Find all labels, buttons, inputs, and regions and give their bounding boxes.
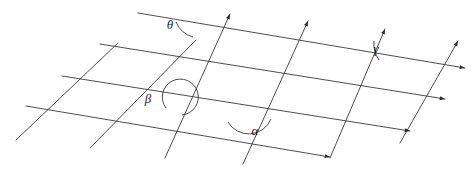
geometry-figure: θγβα — [0, 0, 474, 175]
angle-label-gamma: γ — [373, 41, 379, 56]
geometry-canvas: θγβα — [0, 0, 474, 175]
angle-label-alpha: α — [252, 123, 260, 138]
angle-label-theta: θ — [167, 17, 174, 32]
angle-label-beta: β — [144, 91, 152, 106]
